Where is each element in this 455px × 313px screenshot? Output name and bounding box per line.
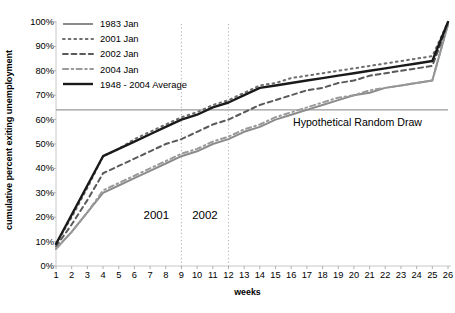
legend-swatch-icon — [62, 49, 94, 59]
x-axis-tick-label: 12 — [223, 270, 233, 280]
x-axis-tick-label: 18 — [317, 270, 327, 280]
legend-swatch-icon — [62, 34, 94, 44]
legend-swatch-icon — [62, 64, 94, 74]
x-axis-tick-label: 2 — [69, 270, 74, 280]
x-axis-tick-label: 4 — [100, 270, 105, 280]
x-axis-tick-label: 17 — [302, 270, 312, 280]
legend-item-3[interactable]: 2004 Jan — [62, 63, 187, 76]
x-axis-tick-label: 20 — [349, 270, 359, 280]
x-axis-tick-label: 25 — [427, 270, 437, 280]
x-axis-title: weeks — [0, 287, 455, 297]
x-axis-tick-label: 9 — [179, 270, 184, 280]
legend-swatch-icon — [62, 19, 94, 29]
x-axis-tick-label: 15 — [270, 270, 280, 280]
x-axis-tick-label: 14 — [255, 270, 265, 280]
x-axis-tick-label: 8 — [163, 270, 168, 280]
x-axis-tick-label: 11 — [208, 270, 218, 280]
x-axis-tick-label: 22 — [380, 270, 390, 280]
x-axis-tick-label: 5 — [116, 270, 121, 280]
legend-item-1[interactable]: 2001 Jan — [62, 32, 187, 45]
legend-swatch-icon — [62, 79, 94, 89]
x-axis-tick-label: 19 — [333, 270, 343, 280]
x-axis-tick-label: 24 — [411, 270, 421, 280]
x-axis-tick-label: 16 — [286, 270, 296, 280]
legend-label: 1948 - 2004 Average — [100, 79, 187, 90]
chart-legend: 1983 Jan2001 Jan2002 Jan2004 Jan1948 - 2… — [62, 17, 187, 91]
x-axis-tick-label: 7 — [147, 270, 152, 280]
x-axis-tick-label: 3 — [85, 270, 90, 280]
x-axis-title-text: weeks — [234, 287, 260, 297]
x-axis-tick-label: 21 — [364, 270, 374, 280]
reference-line-label-hypothetical-random-draw: Hypothetical Random Draw — [293, 116, 422, 128]
legend-label: 1983 Jan — [100, 18, 139, 29]
legend-label: 2004 Jan — [100, 64, 139, 75]
x-axis-tick-label: 1 — [53, 270, 58, 280]
x-axis-tick-label: 6 — [132, 270, 137, 280]
band-label-2001: 2001 — [144, 209, 170, 221]
x-axis-tick-label: 26 — [443, 270, 453, 280]
x-axis-tick-label: 13 — [239, 270, 249, 280]
legend-item-0[interactable]: 1983 Jan — [62, 17, 187, 30]
x-axis-tick-label: 10 — [192, 270, 202, 280]
legend-label: 2001 Jan — [100, 33, 139, 44]
band-label-2002: 2002 — [192, 209, 218, 221]
legend-item-2[interactable]: 2002 Jan — [62, 47, 187, 60]
legend-label: 2002 Jan — [100, 48, 139, 59]
legend-item-4[interactable]: 1948 - 2004 Average — [62, 78, 187, 91]
x-axis-tick-label: 23 — [396, 270, 406, 280]
chart-container: cumulative percent exiting unemployment … — [0, 0, 455, 313]
